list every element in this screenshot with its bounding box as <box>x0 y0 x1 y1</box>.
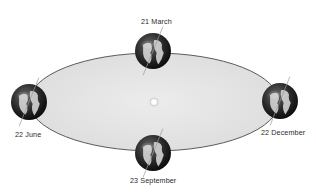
date-label-june: 22 June <box>15 130 41 139</box>
date-label-march: 21 March <box>141 17 172 26</box>
sun-icon <box>147 95 161 109</box>
date-label-september: 23 September <box>130 176 176 185</box>
date-label-december: 22 December <box>261 128 305 137</box>
orbit-diagram <box>0 0 316 194</box>
